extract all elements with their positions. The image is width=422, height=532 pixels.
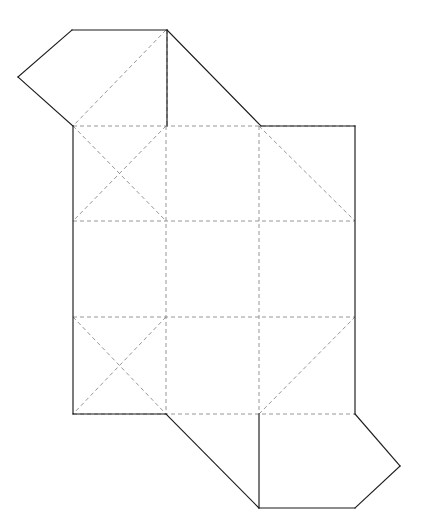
canvas-background xyxy=(0,0,422,532)
box-net-diagram xyxy=(0,0,422,532)
